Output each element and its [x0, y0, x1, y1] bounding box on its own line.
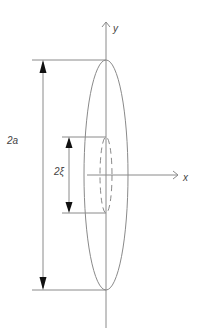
inner-dimension-label: 2ξ	[54, 167, 64, 177]
y-axis-label: y	[113, 24, 118, 34]
inner-dimension-arrow-down-icon	[66, 202, 73, 213]
ellipse-diagram	[0, 0, 198, 336]
outer-dimension-label: 2a	[7, 136, 18, 146]
outer-dimension-arrow-up-icon	[40, 60, 47, 73]
outer-dimension-arrow-down-icon	[40, 277, 47, 290]
inner-dimension-arrow-up-icon	[66, 137, 73, 148]
x-axis-label: x	[183, 173, 188, 183]
